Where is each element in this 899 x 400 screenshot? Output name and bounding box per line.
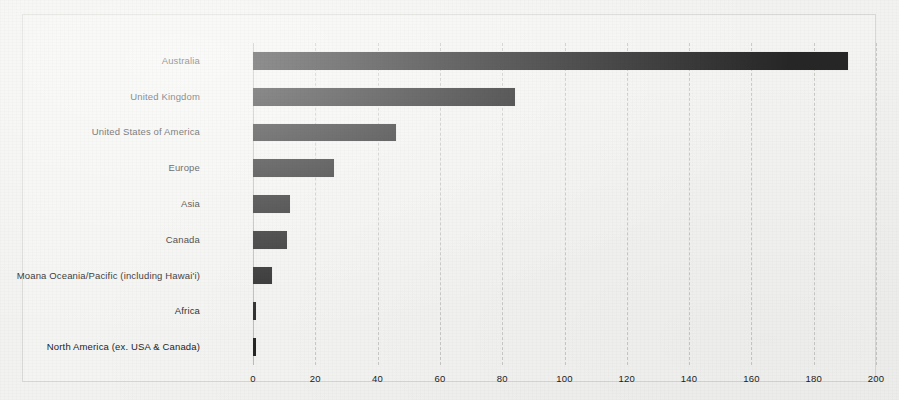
bar-row[interactable] xyxy=(253,338,876,356)
bar-row[interactable] xyxy=(253,52,876,70)
bar-row[interactable] xyxy=(253,159,876,177)
bar-row[interactable] xyxy=(253,195,876,213)
bar[interactable] xyxy=(253,52,848,70)
x-tick-label-160: 160 xyxy=(743,373,759,384)
x-tick-label-20: 20 xyxy=(310,373,321,384)
bar[interactable] xyxy=(253,267,272,285)
x-tick-label-180: 180 xyxy=(805,373,821,384)
x-tick-label-60: 60 xyxy=(434,373,445,384)
category-label-europe: Europe xyxy=(168,162,200,173)
bar-row[interactable] xyxy=(253,231,876,249)
bar-row[interactable] xyxy=(253,88,876,106)
category-label-moana-oceania-pacific-including-hawai-i: Moana Oceania/Pacific (including Hawai'i… xyxy=(17,270,200,281)
bar[interactable] xyxy=(253,338,256,356)
x-tick-label-0: 0 xyxy=(250,373,255,384)
category-label-united-kingdom: United Kingdom xyxy=(130,91,200,102)
category-label-north-america-ex-usa-canada: North America (ex. USA & Canada) xyxy=(47,341,200,352)
x-tick-label-80: 80 xyxy=(497,373,508,384)
x-axis: 020406080100120140160180200 xyxy=(253,373,876,389)
x-tick-label-200: 200 xyxy=(868,373,884,384)
x-tick-label-100: 100 xyxy=(556,373,572,384)
bar[interactable] xyxy=(253,88,515,106)
x-tick-label-40: 40 xyxy=(372,373,383,384)
x-tick-label-120: 120 xyxy=(619,373,635,384)
bar-row[interactable] xyxy=(253,124,876,142)
bar-row[interactable] xyxy=(253,267,876,285)
chart-screenshot: AustraliaUnited KingdomUnited States of … xyxy=(0,0,899,400)
bar[interactable] xyxy=(253,124,396,142)
gridline-200 xyxy=(876,43,878,365)
chart-frame: AustraliaUnited KingdomUnited States of … xyxy=(22,14,876,382)
category-label-united-states-of-america: United States of America xyxy=(92,126,200,137)
bar[interactable] xyxy=(253,231,287,249)
category-label-africa: Africa xyxy=(175,305,200,316)
bar[interactable] xyxy=(253,302,256,320)
x-tick-label-140: 140 xyxy=(681,373,697,384)
bar-row[interactable] xyxy=(253,302,876,320)
category-label-australia: Australia xyxy=(162,55,200,66)
bar[interactable] xyxy=(253,159,334,177)
category-label-canada: Canada xyxy=(166,234,200,245)
category-label-asia: Asia xyxy=(181,198,200,209)
bar[interactable] xyxy=(253,195,290,213)
plot-area: AustraliaUnited KingdomUnited States of … xyxy=(253,43,876,365)
